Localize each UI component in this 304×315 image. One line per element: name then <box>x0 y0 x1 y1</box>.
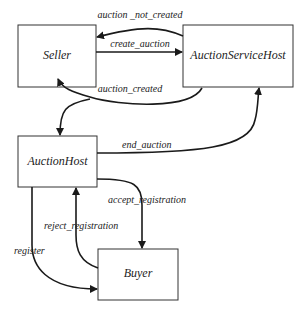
edge-label-auction-not-created: auction _not_created <box>98 9 184 20</box>
auction-service-host-label: AuctionServiceHost <box>189 48 286 62</box>
edge-label-create-auction: create_auction <box>110 38 170 49</box>
edge-label-auction-created: auction_created <box>98 83 164 94</box>
edge-label-end-auction: end_auction <box>122 139 171 150</box>
edge-spawn-auction-host[interactable] <box>60 99 90 135</box>
node-buyer[interactable]: Buyer <box>98 249 178 300</box>
edge-label-reject-registration: reject_registration <box>44 220 118 231</box>
edge-auction-not-created[interactable] <box>97 29 183 37</box>
diagram-canvas: Seller AuctionServiceHost AuctionHost Bu… <box>0 0 304 315</box>
buyer-label: Buyer <box>124 266 153 280</box>
node-seller[interactable]: Seller <box>18 25 96 87</box>
edge-label-accept-registration: accept_registration <box>108 194 186 205</box>
auction-host-label: AuctionHost <box>27 154 89 168</box>
seller-label: Seller <box>43 48 71 62</box>
edge-register[interactable] <box>32 187 97 289</box>
node-auction-host[interactable]: AuctionHost <box>18 136 97 187</box>
edge-label-register: register <box>14 245 45 256</box>
edge-accept-registration[interactable] <box>97 179 142 248</box>
node-auction-service-host[interactable]: AuctionServiceHost <box>183 25 293 87</box>
